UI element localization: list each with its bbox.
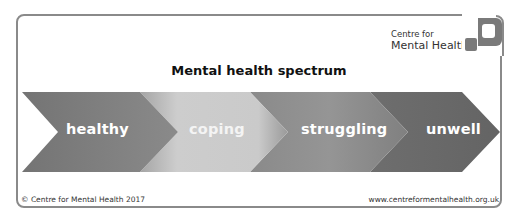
- spectrum-arrow: [0, 0, 518, 219]
- stage-unwell-label: unwell: [426, 121, 481, 137]
- stage-struggling-label: struggling: [301, 121, 387, 137]
- stage-coping-label: coping: [189, 121, 245, 137]
- stage-healthy-label: healthy: [66, 121, 129, 137]
- copyright-text: © Centre for Mental Health 2017: [21, 195, 145, 204]
- website-url: www.centreformentalhealth.org.uk: [369, 195, 499, 204]
